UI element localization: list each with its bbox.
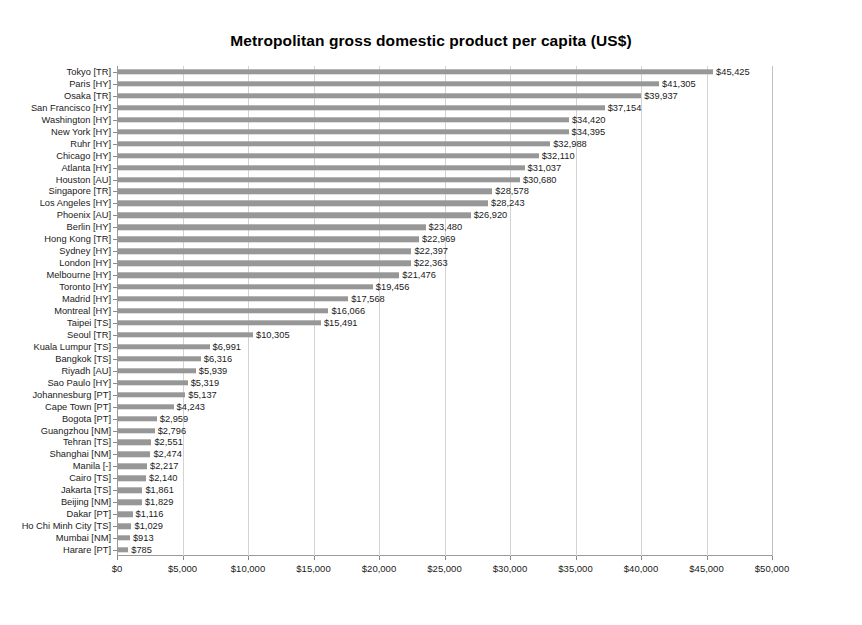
bar xyxy=(118,93,641,98)
bar-row: Washington [HY]$34,420 xyxy=(117,114,772,126)
bar xyxy=(118,69,713,74)
gridline xyxy=(772,66,773,556)
bar-value-label: $41,305 xyxy=(662,79,696,89)
bar xyxy=(118,547,128,552)
bar-row: Madrid [HY]$17,568 xyxy=(117,293,772,305)
x-axis-label: $10,000 xyxy=(231,563,265,574)
bar xyxy=(118,272,399,277)
x-axis-label: $50,000 xyxy=(755,563,789,574)
y-axis-category-label: New York [HY] xyxy=(51,127,111,137)
bar-value-label: $30,680 xyxy=(523,175,557,185)
bar xyxy=(118,260,411,265)
x-axis-tick xyxy=(576,556,577,560)
y-axis-tick xyxy=(113,144,117,145)
bar xyxy=(118,81,659,86)
y-axis-tick xyxy=(113,466,117,467)
y-axis-tick xyxy=(113,132,117,133)
y-axis-category-label: Seoul [TR] xyxy=(67,330,111,340)
y-axis-category-label: Johannesburg [PT] xyxy=(32,390,111,400)
bar-row: Tehran [TS]$2,551 xyxy=(117,436,772,448)
bar xyxy=(118,500,142,505)
bar-row: Seoul [TR]$10,305 xyxy=(117,329,772,341)
bar xyxy=(118,488,142,493)
bar-value-label: $28,578 xyxy=(495,186,529,196)
bar-value-label: $1,829 xyxy=(145,497,173,507)
y-axis-category-label: Washington [HY] xyxy=(42,115,111,125)
bar-value-label: $22,363 xyxy=(414,258,448,268)
y-axis-category-label: Sydney [HY] xyxy=(59,246,111,256)
y-axis-category-label: Mumbai [NM] xyxy=(56,533,111,543)
y-axis-tick xyxy=(113,359,117,360)
y-axis-category-label: Cape Town [PT] xyxy=(45,402,111,412)
x-axis-tick xyxy=(772,556,773,560)
bar xyxy=(118,296,348,301)
bar-row: Harare [PT]$785 xyxy=(117,544,772,556)
bar-row: Montreal [HY]$16,066 xyxy=(117,305,772,317)
y-axis-category-label: Chicago [HY] xyxy=(56,151,111,161)
y-axis-tick xyxy=(113,72,117,73)
bar-row: Taipei [TS]$15,491 xyxy=(117,317,772,329)
bar-value-label: $22,397 xyxy=(414,246,448,256)
y-axis-category-label: Los Angeles [HY] xyxy=(40,198,111,208)
bar-value-label: $23,480 xyxy=(429,222,463,232)
bar xyxy=(118,464,147,469)
bar-value-label: $2,796 xyxy=(158,426,186,436)
y-axis-tick xyxy=(113,299,117,300)
plot-area: Tokyo [TR]$45,425Paris [HY]$41,305Osaka … xyxy=(117,66,772,556)
y-axis-tick xyxy=(113,407,117,408)
y-axis-category-label: Harare [PT] xyxy=(63,545,111,555)
y-axis-category-label: London [HY] xyxy=(59,258,111,268)
x-axis-tick xyxy=(117,556,118,560)
bar-row: Johannesburg [PT]$5,137 xyxy=(117,389,772,401)
y-axis-category-label: Singapore [TR] xyxy=(48,186,111,196)
y-axis-tick xyxy=(113,323,117,324)
bar xyxy=(118,404,174,409)
bar-value-label: $45,425 xyxy=(716,67,750,77)
y-axis-tick xyxy=(113,490,117,491)
bar xyxy=(118,141,550,146)
bar-row: Los Angeles [HY]$28,243 xyxy=(117,197,772,209)
y-axis-category-label: San Francisco [HY] xyxy=(31,103,111,113)
y-axis-category-label: Melbourne [HY] xyxy=(46,270,111,280)
bar-row: Houston [AU]$30,680 xyxy=(117,174,772,186)
bar-value-label: $2,140 xyxy=(149,473,177,483)
y-axis-tick xyxy=(113,239,117,240)
bar-value-label: $913 xyxy=(133,533,154,543)
y-axis-category-label: Kuala Lumpur [TS] xyxy=(33,342,111,352)
bar-value-label: $32,988 xyxy=(553,139,587,149)
bar xyxy=(118,249,411,254)
y-axis-category-label: Ruhr [HY] xyxy=(70,139,111,149)
bar-row: New York [HY]$34,395 xyxy=(117,126,772,138)
bar-row: Shanghai [NM]$2,474 xyxy=(117,448,772,460)
bar-row: Ruhr [HY]$32,988 xyxy=(117,138,772,150)
bar-value-label: $22,969 xyxy=(422,234,456,244)
y-axis-tick xyxy=(113,275,117,276)
y-axis-tick xyxy=(113,347,117,348)
y-axis-tick xyxy=(113,120,117,121)
y-axis-tick xyxy=(113,502,117,503)
bar xyxy=(118,153,539,158)
bar-row: Osaka [TR]$39,937 xyxy=(117,90,772,102)
bar xyxy=(118,452,150,457)
y-axis-category-label: Guangzhou [NM] xyxy=(41,426,111,436)
bar-value-label: $785 xyxy=(131,545,152,555)
bar-row: Sao Paulo [HY]$5,319 xyxy=(117,377,772,389)
y-axis-tick xyxy=(113,227,117,228)
bar xyxy=(118,165,525,170)
bar-row: Bangkok [TS]$6,316 xyxy=(117,353,772,365)
bar xyxy=(118,416,157,421)
y-axis-category-label: Ho Chi Minh City [TS] xyxy=(22,521,111,531)
x-axis-tick xyxy=(183,556,184,560)
bar-row: Jakarta [TS]$1,861 xyxy=(117,484,772,496)
bar-row: Guangzhou [NM]$2,796 xyxy=(117,425,772,437)
bar-value-label: $28,243 xyxy=(491,198,525,208)
y-axis-tick xyxy=(113,96,117,97)
bar-row: Beijing [NM]$1,829 xyxy=(117,496,772,508)
y-axis-tick xyxy=(113,419,117,420)
x-axis-label: $15,000 xyxy=(296,563,330,574)
y-axis-category-label: Dakar [PT] xyxy=(67,509,111,519)
y-axis-tick xyxy=(113,538,117,539)
bar xyxy=(118,511,133,516)
y-axis-category-label: Bogota [PT] xyxy=(62,414,111,424)
bar-row: San Francisco [HY]$37,154 xyxy=(117,102,772,114)
